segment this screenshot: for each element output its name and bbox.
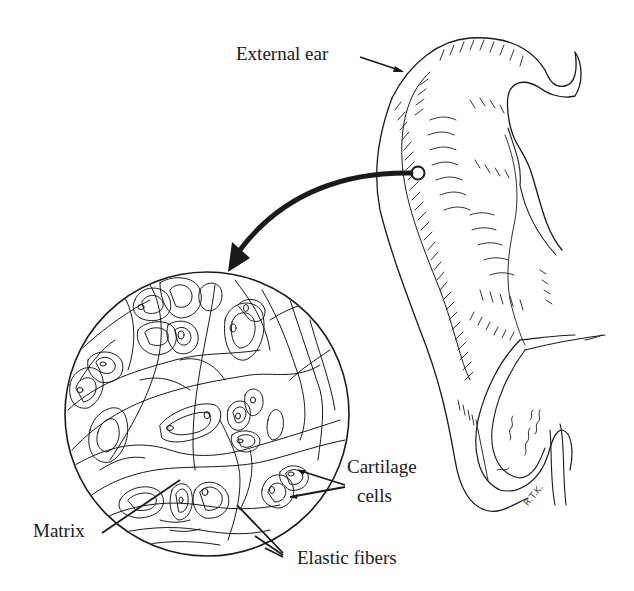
label-matrix: Matrix: [33, 521, 85, 540]
elastic-cartilage-diagram: [0, 0, 634, 591]
label-elastic-fibers: Elastic fibers: [297, 548, 397, 567]
magnified-tissue-view: [65, 272, 349, 556]
ear-hatching: [395, 40, 552, 480]
label-cartilage-cells-line2: cells: [357, 486, 392, 505]
magnification-arrow: [228, 167, 425, 273]
label-cartilage-cells-line1: Cartilage: [347, 457, 417, 476]
label-external-ear: External ear: [236, 44, 328, 63]
